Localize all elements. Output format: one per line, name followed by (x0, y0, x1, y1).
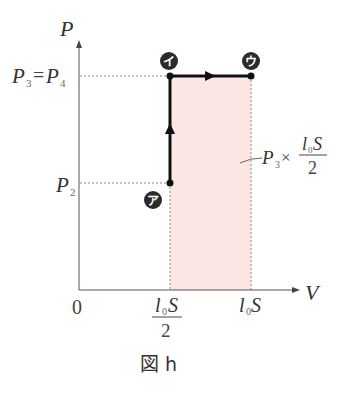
pv-diagram: イ ウ ア P V 0 P 3 = P 4 P 2 l 0 S 2 l 0 S … (0, 0, 342, 394)
area-annotation: P 3 × l 0 S 2 (240, 134, 327, 178)
svg-text:イ: イ (163, 55, 175, 69)
svg-text:S: S (168, 294, 178, 316)
svg-text:P: P (261, 147, 274, 168)
y-axis-arrow-icon (76, 40, 82, 48)
x-axis-arrow-icon (292, 287, 300, 293)
svg-text:l: l (239, 294, 245, 316)
figure-caption: 図 h (140, 353, 177, 375)
svg-text:2: 2 (161, 320, 171, 341)
badge-i: イ (160, 52, 178, 70)
svg-text:S: S (313, 134, 322, 154)
svg-text:P: P (55, 173, 69, 197)
svg-text:3: 3 (26, 77, 32, 89)
svg-text:3: 3 (275, 159, 280, 170)
svg-text:0: 0 (162, 306, 167, 317)
origin-label: 0 (72, 296, 82, 318)
svg-text:l: l (302, 134, 307, 154)
badge-a: ア (144, 191, 162, 209)
y-axis-label: P (59, 16, 73, 41)
svg-text:×: × (281, 148, 291, 167)
point-a-dot (167, 180, 174, 187)
point-i-dot (167, 73, 174, 80)
svg-text:P: P (45, 64, 59, 88)
tick-p2: P 2 (55, 173, 76, 198)
svg-text:S: S (251, 294, 261, 316)
work-area (170, 76, 251, 290)
svg-text:4: 4 (60, 77, 66, 89)
tick-p3-eq-p4: P 3 = P 4 (11, 64, 66, 89)
svg-text:=: = (33, 64, 44, 86)
svg-text:2: 2 (70, 186, 76, 198)
svg-text:l: l (155, 294, 161, 316)
badge-u: ウ (242, 52, 260, 70)
svg-text:2: 2 (308, 158, 317, 178)
svg-text:ウ: ウ (245, 55, 257, 69)
svg-text:ア: ア (147, 194, 159, 208)
svg-text:P: P (11, 64, 25, 88)
tick-half-l0s: l 0 S 2 (152, 294, 182, 341)
point-u-dot (248, 73, 255, 80)
tick-l0s: l 0 S (239, 294, 261, 317)
x-axis-label: V (305, 280, 321, 305)
